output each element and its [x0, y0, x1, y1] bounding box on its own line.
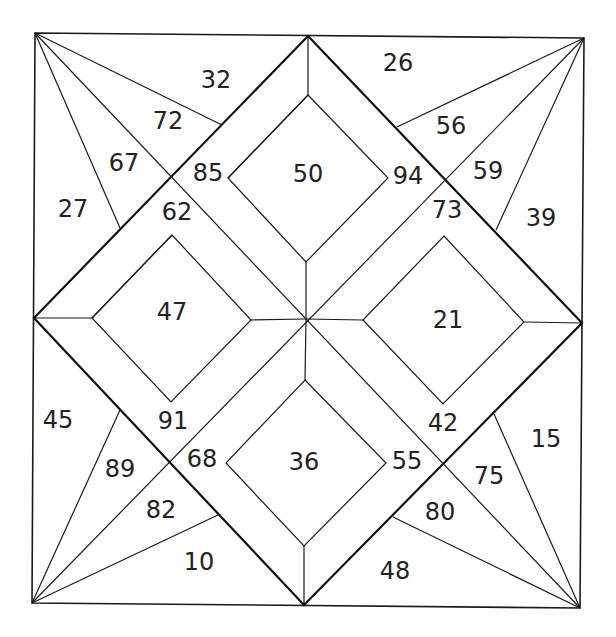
region-label: 67 — [109, 149, 140, 177]
region-label: 27 — [58, 195, 89, 223]
region-label: 42 — [428, 409, 459, 437]
region-label: 91 — [158, 407, 189, 435]
fan-bl-upper — [32, 410, 120, 603]
region-label: 94 — [393, 162, 424, 190]
region-label: 89 — [105, 455, 136, 483]
fan-br-lower — [393, 517, 580, 608]
region-label: 32 — [201, 66, 232, 94]
diamond-label: 36 — [289, 448, 320, 476]
region-label: 15 — [531, 425, 562, 453]
connector-right — [524, 322, 582, 323]
diamond-label: 47 — [157, 298, 188, 326]
region-label: 39 — [526, 204, 557, 232]
region-label: 10 — [184, 548, 215, 576]
fan-tl-upper — [35, 33, 222, 125]
connector-bottom-center — [305, 319, 306, 380]
region-label: 85 — [193, 159, 224, 187]
fan-tr-upper — [397, 38, 584, 127]
connector-left-center — [251, 319, 306, 320]
region-label: 73 — [432, 196, 463, 224]
region-label: 62 — [162, 198, 193, 226]
diamond-label: 50 — [293, 160, 324, 188]
diagonal-tr-bl — [32, 38, 584, 603]
region-label: 72 — [153, 107, 184, 135]
region-label: 82 — [146, 496, 177, 524]
quilt-puzzle: 32 72 67 27 26 56 59 39 45 89 82 10 15 7… — [0, 0, 616, 637]
fan-tr-lower — [496, 38, 584, 230]
region-label: 75 — [474, 462, 505, 490]
region-label: 48 — [380, 557, 411, 585]
region-label: 55 — [392, 447, 423, 475]
connector-right-center — [306, 319, 363, 320]
region-label: 80 — [425, 498, 456, 526]
region-label: 56 — [436, 112, 467, 140]
region-label: 26 — [383, 49, 414, 77]
region-label: 45 — [43, 406, 74, 434]
region-label: 59 — [473, 157, 504, 185]
region-label: 68 — [187, 445, 218, 473]
diamond-label: 21 — [433, 306, 464, 334]
